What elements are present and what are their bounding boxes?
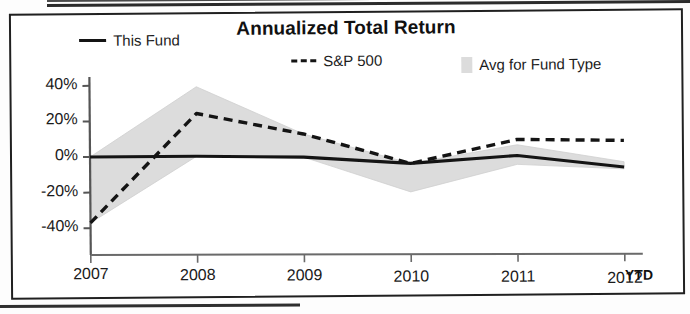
annualized-total-return-chart: Annualized Total Return This Fund S&P 50… [11,10,683,297]
x-axis-tick-label: 2009 [269,266,339,285]
avg-fund-type-band [89,83,624,222]
scanned-page: Annualized Total Return This Fund S&P 50… [0,0,690,314]
page-bottom-rule [0,303,300,308]
y-axis-tick-label: -20% [20,182,78,200]
chart-frame: Annualized Total Return This Fund S&P 50… [9,8,685,299]
x-axis-line [91,251,643,258]
x-axis-tick-label: 2010 [376,267,446,286]
y-axis-tick-label: 40% [19,75,77,93]
plot-area [11,10,683,297]
y-axis-tick-label: 0% [20,146,78,164]
avg-fund-type-band-area [89,83,624,222]
y-axis-tick-label: -40% [20,217,78,235]
x-axis-tick-label: 2008 [163,265,233,284]
x-axis-ytd-label: YTD [625,267,653,283]
y-axis-tick-label: 20% [20,111,78,129]
x-axis-tick-label: 2007 [56,265,126,284]
x-axis-tick-label: 2011 [483,268,553,287]
